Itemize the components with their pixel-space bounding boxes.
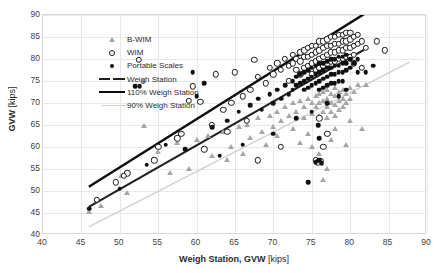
legend-item-90-weigh-station: 90% Weigh Station (97, 99, 287, 112)
y-tick-label: 70 (2, 98, 40, 107)
data-point (141, 123, 147, 128)
data-point (120, 172, 126, 178)
data-point (151, 157, 157, 163)
x-tick-label: 65 (229, 238, 238, 247)
x-tick-label: 40 (37, 238, 46, 247)
data-point (118, 187, 123, 192)
data-point (301, 115, 307, 120)
data-point (343, 142, 349, 147)
data-point (363, 70, 368, 75)
data-point (224, 128, 230, 134)
data-point (343, 100, 349, 105)
legend-item-110-weigh-station: 110% Weigh Station (97, 86, 287, 99)
legend-item-portable-scales: Portable Scales (97, 59, 287, 72)
x-tick-label: 90 (421, 238, 430, 247)
legend-label: Portable Scales (127, 61, 183, 70)
data-point (320, 177, 326, 182)
data-point (382, 47, 388, 53)
data-point (340, 79, 345, 84)
data-point (210, 125, 215, 130)
data-point (301, 104, 307, 109)
data-point (164, 143, 169, 148)
data-point (98, 203, 104, 208)
legend-label: 110% Weigh Station (127, 88, 199, 97)
data-point (340, 104, 346, 109)
data-point (316, 123, 321, 128)
data-point (255, 157, 261, 163)
data-point (294, 116, 299, 121)
data-point (271, 132, 276, 137)
x-axis-title-main: Weigh Station, GVW (179, 254, 265, 264)
data-point (259, 129, 265, 134)
gridline-vertical (427, 15, 428, 233)
data-point (344, 88, 349, 93)
x-tick-label: 50 (114, 238, 123, 247)
data-point (183, 147, 188, 152)
y-tick-label: 50 (2, 186, 40, 195)
legend: B-WIM WIM Portable Scales Weigh Station … (97, 33, 287, 112)
data-point (224, 157, 230, 162)
legend-item-weigh-station: Weigh Station (97, 73, 287, 86)
data-point (336, 94, 341, 99)
data-point (332, 126, 338, 131)
data-point (306, 180, 311, 185)
data-point (309, 144, 315, 149)
data-point (228, 144, 234, 149)
data-point (194, 137, 200, 142)
data-point (359, 38, 365, 44)
data-point (293, 109, 299, 114)
y-tick-label: 90 (2, 10, 40, 19)
data-point (319, 161, 324, 166)
data-point (94, 197, 100, 203)
data-point (363, 82, 369, 87)
x-axis-title-unit: [kips] (268, 254, 289, 264)
y-tick-label: 45 (2, 208, 40, 217)
data-point (155, 149, 161, 154)
data-point (355, 32, 361, 38)
y-tick-label: 85 (2, 32, 40, 41)
data-point (374, 38, 380, 44)
y-tick-label: 60 (2, 142, 40, 151)
data-point (209, 153, 215, 158)
data-point (205, 133, 211, 138)
y-tick-label: 75 (2, 76, 40, 85)
data-point (325, 101, 330, 106)
data-point (356, 70, 361, 75)
data-point (310, 110, 315, 115)
data-point (359, 126, 365, 131)
data-point (286, 92, 291, 97)
x-tick-label: 55 (152, 238, 161, 247)
data-point (347, 96, 353, 101)
x-tick-label: 80 (344, 238, 353, 247)
data-point (270, 124, 276, 129)
y-tick-label: 55 (2, 164, 40, 173)
data-point (351, 89, 357, 94)
data-point (316, 115, 322, 121)
data-point (355, 82, 361, 87)
y-tick-label: 40 (2, 230, 40, 239)
data-point (320, 144, 326, 150)
data-point (217, 154, 222, 159)
x-tick-label: 60 (191, 238, 200, 247)
data-point (240, 143, 245, 148)
x-tick-label: 85 (383, 238, 392, 247)
data-point (225, 118, 230, 123)
data-point (87, 206, 92, 211)
data-point (263, 142, 269, 147)
x-axis-title: Weigh Station, GVW [kips] (42, 254, 426, 264)
data-point (255, 115, 261, 120)
x-tick-label: 45 (76, 238, 85, 247)
data-point (332, 113, 338, 118)
legend-item-wim: WIM (97, 46, 287, 59)
data-point (290, 126, 296, 131)
data-point (167, 170, 173, 175)
data-point (278, 144, 284, 150)
y-tick-label: 80 (2, 54, 40, 63)
data-point (297, 140, 303, 145)
legend-label: WIM (127, 48, 143, 57)
data-point (324, 166, 330, 171)
data-point (201, 146, 207, 152)
data-point (240, 151, 246, 156)
filled-circle-marker-icon (97, 64, 127, 69)
data-point (278, 118, 284, 123)
